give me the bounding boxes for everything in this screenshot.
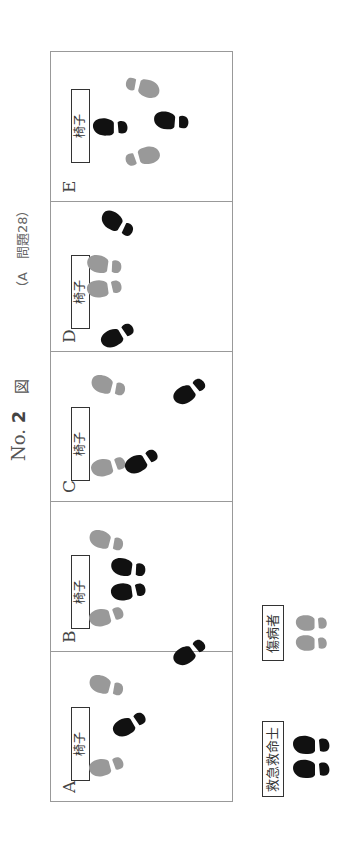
figure-number-value: 2 [8, 411, 29, 424]
panel-b: B椅子 [51, 501, 232, 651]
rescuer-footprint-icon [122, 445, 161, 477]
footprints-layer [51, 502, 232, 651]
footprints-layer [51, 652, 232, 801]
patient-footprint-icon [296, 635, 327, 651]
footprints-layer [51, 202, 232, 351]
rescuer-footprint-icon [170, 374, 208, 408]
patient-footprint-icon [124, 74, 162, 100]
legend-rescuer-label: 救急救命士 [262, 721, 284, 797]
panel-c: C椅子 [51, 351, 232, 501]
rescuer-footprint-icon [110, 557, 147, 579]
panels-frame: A椅子B椅子C椅子D椅子E椅子 [50, 51, 233, 802]
rescuer-footprint-icon [153, 111, 189, 131]
patient-footprint-icon [87, 753, 125, 779]
question-reference: （A 問題28） [12, 204, 31, 294]
rescuer-footprint-icon [93, 118, 128, 135]
patient-footprint-icon [86, 277, 123, 299]
figure-number: No. 2 [8, 411, 29, 461]
figure-number-prefix: No. [8, 429, 29, 461]
footprints-layer [51, 51, 232, 201]
figure-stage: No. 2 図 （A 問題28） A椅子B椅子C椅子D椅子E椅子 救急救命士 傷… [0, 0, 352, 849]
figure-title: No. 2 図 （A 問題28） [6, 0, 32, 849]
panel-d: D椅子 [51, 201, 232, 351]
rescuer-footprint-icon [98, 319, 137, 351]
panel-e: E椅子 [51, 51, 232, 201]
patient-footprint-icon [124, 144, 162, 170]
patient-footprint-icon [89, 373, 127, 399]
figure-suffix: 図 [10, 379, 31, 394]
rescuer-footprint-icon [293, 760, 329, 778]
footprints-layer [51, 352, 232, 501]
patient-footprint-icon [296, 615, 327, 631]
patient-footprint-icon [86, 254, 123, 276]
rescuer-footprint-icon [293, 736, 329, 754]
rescuer-footprint-icon [98, 207, 137, 239]
panel-a: A椅子 [51, 651, 232, 801]
patient-footprint-icon [89, 453, 127, 479]
patient-footprint-icon [87, 603, 125, 629]
legend-patient-feet-icon [290, 603, 340, 663]
rescuer-footprint-icon [110, 708, 149, 740]
legend-rescuer-feet-icon [290, 729, 340, 789]
patient-footprint-icon [87, 528, 125, 554]
rescuer-footprint-icon [110, 580, 147, 602]
patient-footprint-icon [87, 673, 125, 699]
legend-patient-label: 傷病者 [262, 605, 284, 661]
